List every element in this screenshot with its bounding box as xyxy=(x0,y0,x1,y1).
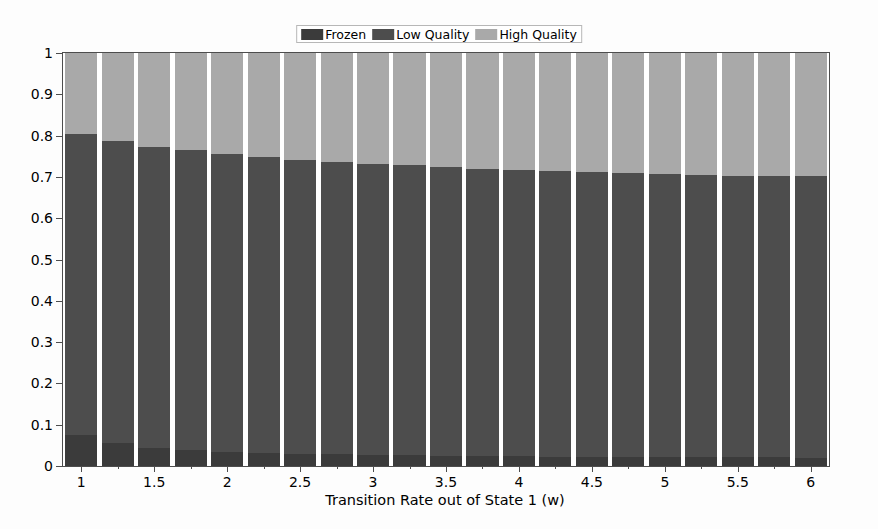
stacked-bar xyxy=(430,53,462,466)
bar-segment-high-quality xyxy=(539,53,571,171)
y-axis-tick-label: 0.9 xyxy=(31,86,53,102)
stacked-bar xyxy=(175,53,207,466)
x-axis-tick xyxy=(665,466,666,472)
stacked-bar xyxy=(539,53,571,466)
bar-segment-frozen xyxy=(649,457,681,466)
bar-segment-low-quality xyxy=(612,173,644,457)
x-axis-tick xyxy=(446,466,447,472)
x-axis-minor-tick xyxy=(264,466,265,469)
bar-segment-frozen xyxy=(539,457,571,466)
bar-segment-frozen xyxy=(248,453,280,466)
x-axis-tick xyxy=(373,466,374,472)
x-axis-tick xyxy=(811,466,812,472)
legend-label: Frozen xyxy=(325,28,366,41)
chart-figure: FrozenLow QualityHigh Quality 00.10.20.3… xyxy=(0,0,878,529)
bar-segment-frozen xyxy=(576,457,608,466)
bar-segment-frozen xyxy=(357,455,389,466)
x-axis-minor-tick xyxy=(410,466,411,469)
y-axis-tick-label: 0.2 xyxy=(31,375,53,391)
bar-segment-low-quality xyxy=(795,176,827,458)
stacked-bar xyxy=(503,53,535,466)
bar-segment-high-quality xyxy=(758,53,790,176)
bar-segment-low-quality xyxy=(393,165,425,455)
x-axis-minor-tick xyxy=(191,466,192,469)
bar-segment-high-quality xyxy=(211,53,243,154)
x-axis-minor-tick xyxy=(701,466,702,469)
y-axis-tick xyxy=(56,260,63,261)
y-axis-tick xyxy=(56,342,63,343)
bar-segment-low-quality xyxy=(211,154,243,451)
bar-segment-frozen xyxy=(758,457,790,466)
x-axis-tick xyxy=(592,466,593,472)
stacked-bar xyxy=(211,53,243,466)
bar-segment-frozen xyxy=(430,456,462,466)
bar-segment-low-quality xyxy=(175,150,207,449)
bar-segment-low-quality xyxy=(685,175,717,457)
x-axis-tick xyxy=(738,466,739,472)
y-axis-tick-label: 0.4 xyxy=(31,293,53,309)
stacked-bar xyxy=(357,53,389,466)
x-axis-tick-label: 2.5 xyxy=(289,474,311,490)
x-axis-minor-tick xyxy=(118,466,119,469)
y-axis-tick-label: 0.6 xyxy=(31,210,53,226)
y-axis-tick xyxy=(56,94,63,95)
stacked-bar xyxy=(284,53,316,466)
x-axis-tick xyxy=(300,466,301,472)
bar-segment-high-quality xyxy=(466,53,498,169)
x-axis-minor-tick xyxy=(337,466,338,469)
x-axis-minor-tick xyxy=(774,466,775,469)
bar-segment-high-quality xyxy=(65,53,97,134)
y-axis-tick xyxy=(56,53,63,54)
bar-segment-frozen xyxy=(321,454,353,466)
x-axis-tick-label: 3 xyxy=(369,474,378,490)
bar-segment-low-quality xyxy=(649,174,681,457)
legend-swatch-icon xyxy=(372,29,394,40)
y-axis-tick-label: 0 xyxy=(44,458,53,474)
bar-segment-low-quality xyxy=(65,134,97,435)
stacked-bar xyxy=(248,53,280,466)
bar-segment-low-quality xyxy=(357,164,389,455)
legend-entry: Frozen xyxy=(301,28,366,41)
bar-segment-low-quality xyxy=(430,167,462,456)
x-axis-tick-label: 3.5 xyxy=(435,474,457,490)
legend-label: High Quality xyxy=(499,28,576,41)
bar-segment-high-quality xyxy=(685,53,717,175)
bar-segment-frozen xyxy=(102,443,134,466)
legend-entry: Low Quality xyxy=(372,28,469,41)
bar-segment-high-quality xyxy=(430,53,462,167)
stacked-bar xyxy=(612,53,644,466)
x-axis-tick-label: 2 xyxy=(223,474,232,490)
bar-segment-frozen xyxy=(466,456,498,466)
y-axis-tick xyxy=(56,466,63,467)
bar-segment-low-quality xyxy=(503,170,535,456)
stacked-bar xyxy=(576,53,608,466)
stacked-bar xyxy=(722,53,754,466)
y-axis-tick xyxy=(56,136,63,137)
stacked-bar xyxy=(138,53,170,466)
x-axis-minor-tick xyxy=(555,466,556,469)
bar-segment-low-quality xyxy=(466,169,498,456)
y-axis-tick xyxy=(56,301,63,302)
bar-segment-low-quality xyxy=(284,160,316,454)
y-axis-tick xyxy=(56,218,63,219)
bar-segment-high-quality xyxy=(612,53,644,173)
stacked-bar xyxy=(649,53,681,466)
y-axis-tick xyxy=(56,383,63,384)
x-axis-tick-label: 4.5 xyxy=(581,474,603,490)
bar-segment-frozen xyxy=(503,456,535,466)
bar-segment-high-quality xyxy=(102,53,134,141)
stacked-bar xyxy=(321,53,353,466)
bar-segment-low-quality xyxy=(102,141,134,443)
stacked-bar xyxy=(393,53,425,466)
stacked-bar xyxy=(795,53,827,466)
x-axis-tick xyxy=(227,466,228,472)
stacked-bar xyxy=(466,53,498,466)
bar-segment-frozen xyxy=(722,457,754,466)
bar-segment-high-quality xyxy=(722,53,754,176)
chart-legend: FrozenLow QualityHigh Quality xyxy=(296,25,582,43)
x-axis-tick-label: 5 xyxy=(660,474,669,490)
x-axis-minor-tick xyxy=(628,466,629,469)
y-axis-tick-label: 0.3 xyxy=(31,334,53,350)
bar-segment-high-quality xyxy=(357,53,389,164)
x-axis-tick-label: 6 xyxy=(806,474,815,490)
